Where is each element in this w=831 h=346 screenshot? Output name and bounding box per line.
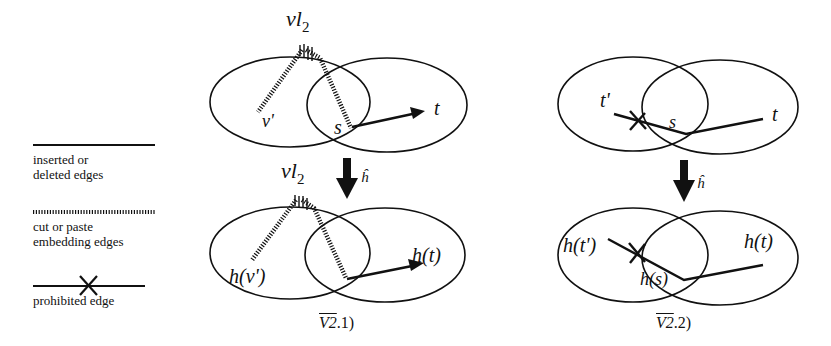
ellipse-right [305, 208, 465, 302]
ellipse-left [210, 57, 370, 147]
label-h-t: h(t) [744, 231, 773, 251]
label-h-hat-2: ĥ [697, 176, 705, 191]
inserted-edge-h-s-h-t [347, 266, 412, 279]
hatched-edge-to-h-v-prime [252, 200, 296, 260]
label-vl2-top: vl2 [286, 8, 309, 30]
legend-label: cut or paste [33, 219, 124, 234]
legend-item-prohibited: prohibited edge [33, 293, 114, 308]
diagram2-top [558, 57, 798, 154]
label-vl2-bottom: vl2 [281, 160, 304, 182]
label-t: t [434, 98, 440, 118]
label-s: s [669, 113, 676, 131]
label-s: s [334, 117, 342, 137]
mapping-arrow-1 [336, 158, 358, 199]
caption-v2-1: V2.1) [319, 315, 354, 331]
inserted-edge-s-t [352, 113, 417, 127]
mapping-arrow-2 [673, 160, 695, 202]
diagram2-bottom [558, 208, 798, 305]
label-h-t: h(t) [412, 245, 441, 265]
legend-item-cut-paste: cut or paste embedding edges [33, 219, 124, 249]
label-h-t-prime: h(t') [563, 235, 596, 255]
label-h-v-prime: h(v') [229, 266, 265, 286]
prohibited-x-icon [630, 111, 646, 130]
ellipse-right [642, 211, 798, 305]
legend-label: inserted or [33, 152, 103, 167]
label-v-prime: v' [262, 112, 274, 130]
label-h-hat-1: ĥ [361, 170, 369, 185]
arrowhead-icon [410, 107, 425, 119]
label-t: t [772, 104, 778, 124]
ellipse-right [307, 58, 467, 152]
ellipse-left [558, 57, 708, 151]
legend-label: prohibited edge [33, 293, 114, 308]
label-t-prime: t' [600, 90, 610, 110]
caption-v2-2: V2.2) [656, 315, 691, 331]
diagram-canvas [0, 0, 831, 346]
label-h-s: h(s) [640, 270, 668, 288]
legend-label: deleted edges [33, 167, 103, 182]
legend-item-inserted-deleted: inserted or deleted edges [33, 152, 103, 182]
legend-label: embedding edges [33, 234, 124, 249]
